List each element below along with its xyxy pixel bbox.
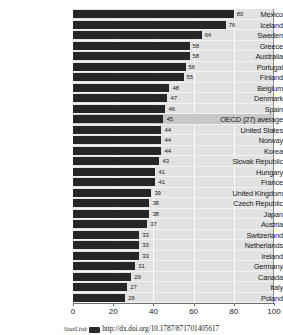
statlink-footer: StatLink http://dx.doi.org/10.1787/87170… [0,325,283,335]
bar-value-label: 58 [193,42,199,50]
bar [73,52,190,60]
bar-value-label: 44 [164,147,170,155]
bar [73,63,186,71]
x-tick-mark [73,303,74,306]
x-tick-mark [274,303,275,306]
bar [73,42,190,50]
bar-value-label: 41 [158,168,164,176]
category-label: Poland [212,293,283,304]
bar [73,241,139,249]
bar-value-label: 39 [154,189,160,197]
bar-value-label: 45 [166,115,172,123]
bar-value-label: 31 [138,262,144,270]
x-tick-mark [194,303,195,306]
bar-value-label: 29 [134,273,140,281]
bar-value-label: 47 [170,94,176,102]
bar-value-label: 44 [164,136,170,144]
x-tick-label: 100 [267,307,280,317]
x-tick-mark [113,303,114,306]
bar [73,126,161,134]
bar [73,105,165,113]
bar-value-label: 26 [128,294,134,302]
bar [73,84,169,92]
bar-value-label: 38 [152,199,158,207]
x-tick-mark [153,303,154,306]
bar-value-label: 46 [168,105,174,113]
bar [73,94,167,102]
bar-value-label: 56 [189,63,195,71]
bar-value-label: 64 [205,31,211,39]
bar [73,262,135,270]
bar [73,21,226,29]
bar-value-label: 27 [130,283,136,291]
bar-value-label: 33 [142,252,148,260]
bar [73,73,184,81]
bar [73,231,139,239]
x-tick-label: 20 [109,307,118,317]
bar [73,252,139,260]
bar [73,283,127,291]
bar [73,147,161,155]
bar-value-label: 33 [142,231,148,239]
bar [73,273,131,281]
x-tick-label: 0 [71,307,75,317]
bar-value-label: 41 [158,178,164,186]
bar-value-label: 48 [172,84,178,92]
bar [73,168,155,176]
bar-chart-figure: 8076645858565548474645444444434141393838… [0,0,283,335]
bar-value-label: 33 [142,241,148,249]
statlink-barcode-icon [89,327,100,333]
bar [73,10,234,18]
bar-value-label: 58 [193,52,199,60]
bar [73,157,159,165]
bar [73,220,147,228]
bar [73,136,161,144]
bar-value-label: 43 [162,157,168,165]
bar [73,294,125,302]
bar [73,189,151,197]
statlink-label: StatLink [64,325,87,334]
bar-value-label: 55 [187,73,193,81]
bar [73,178,155,186]
bar-value-label: 37 [150,220,156,228]
bar [73,199,149,207]
x-tick-label: 80 [229,307,238,317]
bar-value-label: 44 [164,126,170,134]
x-tick-label: 40 [149,307,158,317]
bar-value-label: 38 [152,210,158,218]
bar [73,210,149,218]
x-tick-mark [234,303,235,306]
bar [73,115,163,123]
x-tick-label: 60 [189,307,198,317]
statlink-url[interactable]: http://dx.doi.org/10.1787/871701405617 [102,325,219,334]
bar [73,31,202,39]
